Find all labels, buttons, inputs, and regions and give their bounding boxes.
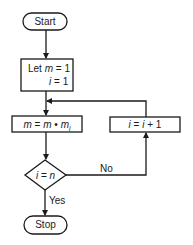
mult-var-m3: m	[61, 119, 69, 130]
start-label: Start	[23, 16, 67, 27]
mult-dot: •	[52, 119, 61, 130]
increment-label: i = i + 1	[110, 119, 180, 130]
mult-eq: =	[32, 119, 43, 130]
arrow-loop-back	[47, 101, 146, 117]
multiply-label: m = m • mi	[12, 119, 82, 134]
dec-var-n: n	[50, 170, 56, 181]
init-m-value: = 1	[53, 63, 70, 74]
init-line-1: Let m = 1	[28, 63, 70, 74]
stop-label: Stop	[24, 219, 67, 230]
init-let-text: Let	[28, 63, 45, 74]
yes-label: Yes	[49, 195, 65, 206]
init-line-2: i = 1	[49, 76, 68, 87]
mult-var-m2: m	[43, 119, 51, 130]
mult-subscript-i: i	[69, 125, 71, 132]
decision-label: i = n	[25, 170, 66, 181]
inc-eq: =	[131, 119, 142, 130]
inc-plus-one: + 1	[144, 119, 161, 130]
dec-eq: =	[38, 170, 49, 181]
init-var-m: m	[45, 63, 53, 74]
mult-var-m1: m	[23, 119, 31, 130]
init-i-value: = 1	[51, 76, 68, 87]
no-label: No	[100, 163, 113, 174]
